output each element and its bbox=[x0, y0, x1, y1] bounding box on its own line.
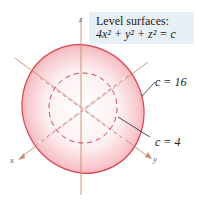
z-axis-label: z bbox=[79, 15, 83, 24]
y-axis-label: y bbox=[153, 155, 157, 164]
x-axis-label: x bbox=[10, 156, 14, 165]
caption-equation: 4x² + y² + z² = c bbox=[96, 28, 176, 41]
leader-c16 bbox=[142, 82, 155, 96]
label-c4: c = 4 bbox=[155, 136, 180, 148]
x-axis-arrow-icon bbox=[18, 153, 25, 160]
label-c16: c = 16 bbox=[155, 76, 186, 88]
y-axis-arrow-icon bbox=[145, 152, 152, 159]
